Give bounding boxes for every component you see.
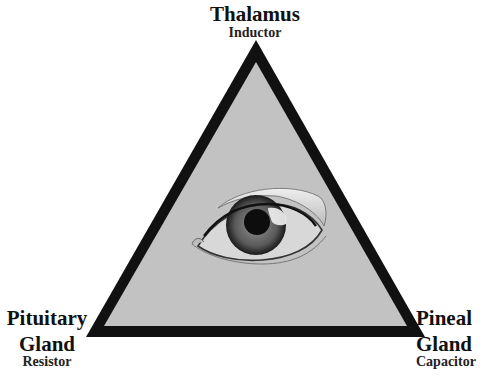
vertex-label-top: Thalamus Inductor: [190, 4, 320, 40]
pineal-title-line2: Gland: [416, 334, 497, 355]
inductor-subtitle: Inductor: [190, 26, 320, 40]
capacitor-subtitle: Capacitor: [416, 355, 497, 369]
pituitary-title-line1: Pituitary: [4, 308, 90, 329]
pineal-title-line1: Pineal: [416, 308, 497, 329]
vertex-label-bottom-left: Pituitary Gland Resistor: [4, 308, 90, 369]
resistor-subtitle: Resistor: [4, 355, 90, 369]
diagram-canvas: Thalamus Inductor Pituitary Gland Resist…: [0, 0, 497, 380]
pituitary-title-line2: Gland: [4, 334, 90, 355]
vertex-label-bottom-right: Pineal Gland Capacitor: [416, 308, 497, 369]
thalamus-title: Thalamus: [190, 4, 320, 25]
